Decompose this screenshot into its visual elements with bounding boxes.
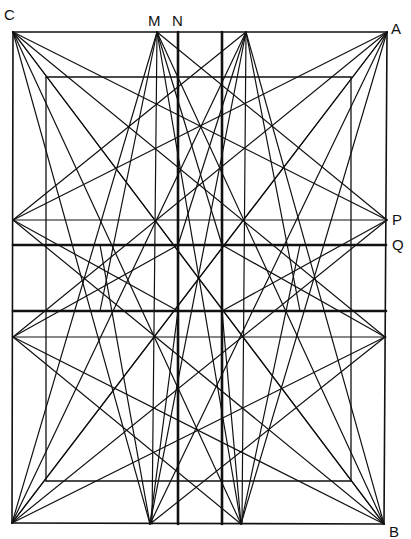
outer-rect-left [12,32,13,523]
label-B: B [389,523,399,539]
label-P: P [392,211,402,228]
label-M: M [148,12,161,29]
RP-diag [222,220,387,311]
T2-to-BL [150,32,246,524]
fan-A-4 [241,32,387,524]
label-N: N [172,12,183,29]
M-to-BR [157,32,241,524]
geometric-construction-diagram: C M N A P Q B [0,0,411,539]
label-Q: Q [392,236,404,253]
label-C: C [4,6,15,23]
LP-diag [13,220,178,311]
label-A: A [391,20,401,37]
BR-diag-right [241,245,300,524]
outer-rect-bottom [12,523,384,524]
LQ-diag [13,245,178,337]
fan-B-3 [157,32,384,524]
outer-rect-right [384,32,387,524]
